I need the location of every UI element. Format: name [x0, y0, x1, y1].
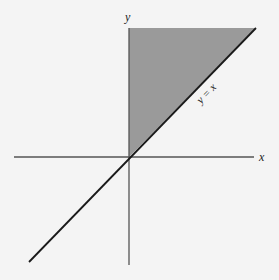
diagram-figure: x y y = x [0, 0, 279, 280]
y-axis-label: y [124, 10, 131, 24]
x-axis-label: x [258, 150, 265, 164]
diagram-canvas: x y y = x [0, 0, 279, 280]
